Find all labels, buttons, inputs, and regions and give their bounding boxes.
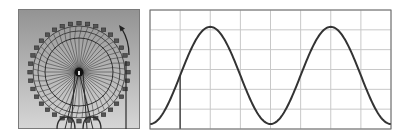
height-vs-time-chart [148,8,394,132]
sinusoid-plot [148,8,394,132]
ferris-wheel-photo [18,9,140,129]
chart-grid [150,10,391,129]
ferris-wheel-illustration [18,9,140,129]
